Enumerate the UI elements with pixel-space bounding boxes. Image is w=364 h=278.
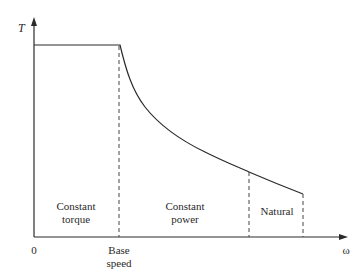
x-axis-label: ω (342, 244, 349, 256)
region-constant-power-line2: power (171, 213, 199, 225)
torque-curve (34, 45, 303, 194)
region-constant-torque-line1: Constant (56, 200, 95, 212)
y-axis-arrow-icon (31, 17, 37, 26)
region-constant-torque-line2: torque (62, 213, 90, 225)
y-axis-label: T (18, 21, 26, 35)
torque-speed-diagram: T ω 0 Base speed Constant torque Constan… (0, 0, 364, 278)
origin-label: 0 (31, 244, 37, 256)
base-speed-label-line2: speed (106, 257, 132, 269)
x-axis-arrow-icon (339, 234, 348, 240)
region-natural: Natural (261, 205, 294, 217)
base-speed-label-line1: Base (108, 244, 130, 256)
region-constant-power-line1: Constant (165, 200, 204, 212)
